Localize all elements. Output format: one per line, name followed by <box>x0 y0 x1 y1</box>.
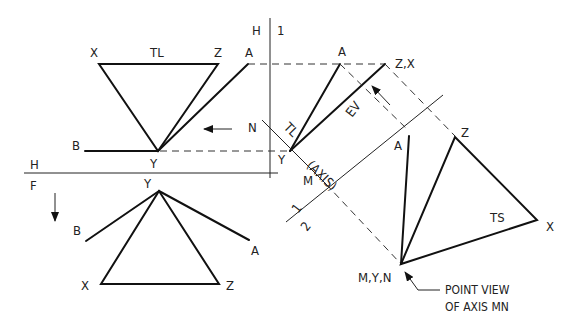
label-f-hf: F <box>30 178 37 193</box>
auxiliary-view-1: A Z,X EV N Y TL (AXIS) M <box>248 44 415 194</box>
label-z-front: Z <box>226 278 234 293</box>
label-x-aux2: X <box>546 219 554 234</box>
label-b-top: B <box>72 138 80 153</box>
leader-line <box>405 272 440 290</box>
projection-axis <box>326 184 401 264</box>
point-view-note: POINT VIEW OF AXIS MN <box>405 272 510 314</box>
label-y-front: Y <box>143 176 152 191</box>
label-m: M <box>303 173 313 188</box>
label-ts: TS <box>489 210 505 225</box>
label-2-12: 2 <box>298 219 314 234</box>
projection-zx-12 <box>385 64 455 136</box>
line-edge-view <box>290 64 385 151</box>
label-n: N <box>248 120 257 135</box>
label-a-aux1: A <box>338 44 346 59</box>
triangle-xyz-front <box>101 191 219 284</box>
label-z-top: Z <box>214 45 222 60</box>
label-myn: M,Y,N <box>358 270 391 285</box>
line-ya-front <box>159 191 249 240</box>
label-tl-top: TL <box>149 45 164 60</box>
label-1-12: 1 <box>289 201 305 216</box>
line-ya-top <box>158 64 248 151</box>
label-1-h1: 1 <box>277 23 284 38</box>
triangle-xyz-top <box>99 64 218 151</box>
line-yb-front <box>86 191 159 241</box>
note-line-1: POINT VIEW <box>445 283 510 297</box>
view-direction-arrow-2 <box>372 86 390 105</box>
label-ev: EV <box>343 98 364 119</box>
front-view: Y B A X Z <box>73 176 259 293</box>
triangle-true-size <box>401 137 537 264</box>
auxiliary-view-2: A Z X TS M,Y,N <box>358 125 554 285</box>
label-h-h1: H <box>252 23 261 38</box>
line-ya-aux2 <box>401 136 409 264</box>
note-line-2: OF AXIS MN <box>445 300 509 314</box>
label-y-aux1: Y <box>277 152 286 167</box>
label-x-front: X <box>81 278 89 293</box>
label-z-aux2: Z <box>461 125 469 140</box>
label-a-front: A <box>251 243 259 258</box>
label-h-hf: H <box>30 157 39 172</box>
line-ya-aux1 <box>290 64 340 151</box>
descriptive-geometry-drawing: X TL Z A B Y H F Y B A X Z H 1 A <box>0 0 574 332</box>
label-x-top: X <box>90 45 98 60</box>
label-zx-aux1: Z,X <box>395 56 415 71</box>
label-b-front: B <box>73 223 81 238</box>
label-y-top: Y <box>149 156 158 171</box>
top-view: X TL Z A B Y <box>72 45 253 171</box>
label-a-top: A <box>245 45 253 60</box>
label-a-aux2: A <box>394 138 402 153</box>
